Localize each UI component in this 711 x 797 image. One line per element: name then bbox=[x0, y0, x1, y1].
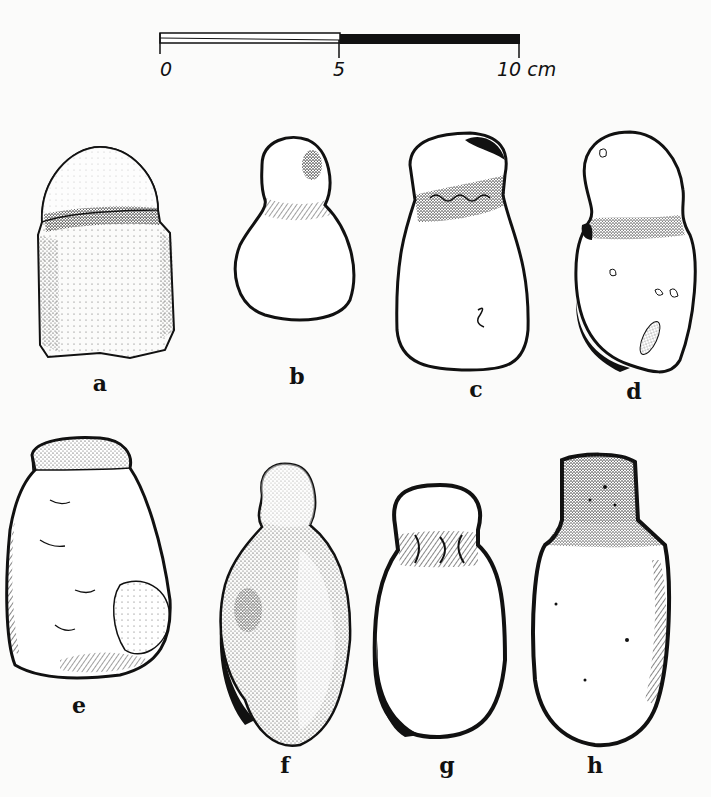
label-h: h bbox=[580, 752, 610, 778]
artifact-b bbox=[235, 137, 354, 320]
label-b: b bbox=[282, 363, 312, 389]
artifact-f bbox=[220, 464, 350, 746]
label-f: f bbox=[270, 752, 300, 778]
artifact-h bbox=[533, 455, 669, 746]
label-c: c bbox=[461, 376, 491, 402]
label-a: a bbox=[85, 370, 115, 396]
artifact-drawings bbox=[0, 0, 711, 797]
artifact-c bbox=[397, 133, 528, 370]
artifact-e bbox=[7, 438, 170, 678]
artifact-g bbox=[375, 485, 505, 737]
artifact-a bbox=[38, 147, 174, 358]
label-e: e bbox=[64, 692, 94, 718]
label-g: g bbox=[432, 752, 462, 778]
artifact-d bbox=[576, 132, 695, 372]
label-d: d bbox=[619, 378, 649, 404]
